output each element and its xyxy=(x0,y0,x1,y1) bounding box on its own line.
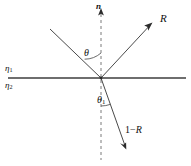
transmitted-prefix: 1− xyxy=(125,124,136,135)
medium-lower-index-label: η2 xyxy=(5,81,13,90)
angle-of-transmission-subscript: 1 xyxy=(102,98,105,105)
reflected-ray-line xyxy=(101,27,149,78)
medium-lower-subscript: 2 xyxy=(9,84,12,90)
ray-diagram-canvas xyxy=(0,0,191,166)
medium-upper-index-label: η1 xyxy=(5,64,13,73)
transmitted-ray-line xyxy=(101,78,125,145)
transmitted-ray-label: 1−R xyxy=(125,125,142,135)
interface-intersection-point xyxy=(100,77,103,80)
transmitted-symbol: R xyxy=(136,124,142,135)
optics-ray-diagram: n R θ θ1 η1 η2 1−R xyxy=(0,0,191,166)
incident-ray-line xyxy=(50,29,101,78)
angle-of-transmission-label: θ1 xyxy=(97,95,105,106)
reflected-ray-label: R xyxy=(160,13,167,24)
medium-upper-subscript: 1 xyxy=(9,67,12,73)
normal-vector-label: n xyxy=(96,2,101,11)
transmitted-ray-arrowhead-icon xyxy=(120,142,126,149)
angle-of-incidence-label: θ xyxy=(84,48,89,58)
